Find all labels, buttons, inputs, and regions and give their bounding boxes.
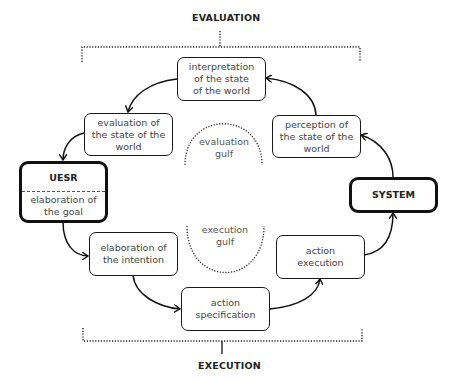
arrow-user-to-intention [63,222,88,256]
arrow-specification-to-execution [270,279,320,309]
arrow-execution-to-system [364,213,393,255]
arrow-evaluation-to-user [63,133,84,160]
node-user-title: UESR [22,164,105,192]
node-evaluation-label: evaluation of the state of the world [92,117,165,153]
node-user: UESR elaboration of the goal [19,161,108,223]
execution-gulf-label: execution gulf [197,224,253,248]
evaluation-heading: EVALUATION [192,12,260,23]
node-action-specification-label: action specification [196,297,256,321]
node-action-specification: action specification [181,287,270,331]
node-user-goal: elaboration of the goal [22,191,105,220]
execution-heading: EXECUTION [198,360,261,371]
node-action-execution-label: action execution [297,245,343,269]
node-perception: perception of the state of the world [272,115,361,158]
arrow-interpretation-to-evaluation [128,79,177,112]
node-system-label: SYSTEM [372,189,415,201]
node-interpretation: interpretation of the state of the world [177,57,266,101]
node-perception-label: perception of the state of the world [280,119,353,155]
node-system: SYSTEM [349,177,438,213]
node-action-execution: action execution [276,235,365,279]
arrow-intention-to-specification [133,275,180,309]
node-evaluation: evaluation of the state of the world [84,113,173,156]
node-interpretation-label: interpretation of the state of the world [189,61,254,97]
arrow-system-to-perception [361,135,393,177]
arrow-perception-to-interpretation [266,78,316,115]
evaluation-gulf-label: evaluation gulf [196,136,252,160]
node-intention: elaboration of the intention [89,232,178,276]
node-intention-label: elaboration of the intention [100,242,166,266]
